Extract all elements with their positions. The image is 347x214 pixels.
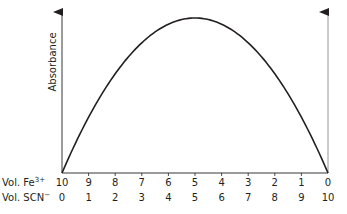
row-label-fe: Vol. Fe3+ (2, 176, 45, 188)
x-tick-label: 1 (85, 192, 91, 203)
x-tick-label: 1 (298, 177, 304, 188)
x-tick-label: 8 (272, 192, 278, 203)
x-tick-label: 6 (165, 177, 171, 188)
x-tick-label: 2 (272, 177, 278, 188)
chart-canvas: Absorbance 109876543210012345678910 Vol.… (0, 0, 347, 214)
x-tick-label: 2 (112, 192, 118, 203)
x-tick-label: 6 (218, 192, 224, 203)
x-tick-label: 5 (192, 177, 198, 188)
x-tick-label: 10 (322, 192, 335, 203)
x-tick-label: 0 (59, 192, 65, 203)
x-tick-label: 3 (245, 177, 251, 188)
x-tick-label: 3 (139, 192, 145, 203)
x-tick-label: 7 (245, 192, 251, 203)
x-tick-label: 8 (112, 177, 118, 188)
x-tick-label: 9 (85, 177, 91, 188)
row-label-scn: Vol. SCN− (2, 191, 50, 203)
x-tick-label: 7 (139, 177, 145, 188)
x-tick-label: 10 (56, 177, 69, 188)
job-plot-chart: Absorbance 109876543210012345678910 Vol.… (0, 0, 347, 214)
x-tick-label: 4 (165, 192, 171, 203)
x-tick-label: 0 (325, 177, 331, 188)
x-tick-label: 4 (218, 177, 224, 188)
x-tick-label: 5 (192, 192, 198, 203)
y-axis-label: Absorbance (47, 32, 58, 91)
x-axis-row-labels: Vol. Fe3+Vol. SCN− (2, 176, 50, 203)
absorbance-curve (62, 18, 328, 173)
x-axis-tick-labels: 109876543210012345678910 (56, 177, 335, 203)
x-tick-label: 9 (298, 192, 304, 203)
